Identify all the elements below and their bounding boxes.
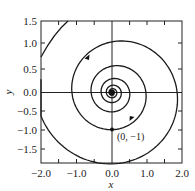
x-tick-label: −1.0 xyxy=(67,167,87,179)
phase-plot: −2.0 −1.0 0.0 1.0 2.0 1.5 1.0 0.5 0.0 −0… xyxy=(0,0,195,191)
trajectory-curve xyxy=(41,41,178,164)
equilibrium-point xyxy=(109,90,115,96)
start-point-marker xyxy=(110,128,114,132)
y-axis-title: y xyxy=(2,89,14,95)
y-tick-label: 1.5 xyxy=(23,15,37,27)
y-tick-label: −1.5 xyxy=(17,143,37,155)
y-tick-label: 0.5 xyxy=(23,63,37,75)
start-point-label: (0, −1) xyxy=(117,131,144,143)
x-tick-label: −2.0 xyxy=(31,167,51,179)
x-tick-label: 1.0 xyxy=(140,167,154,179)
outer-trajectory-branch xyxy=(41,21,68,57)
direction-arrow-icon xyxy=(130,116,135,121)
x-axis-title: x xyxy=(108,178,114,190)
y-tick-label: 1.0 xyxy=(23,37,37,49)
y-tick-label: −1.0 xyxy=(17,124,37,136)
x-tick-label: 2.0 xyxy=(175,167,189,179)
y-tick-label: −0.5 xyxy=(17,105,37,117)
y-tick-label: 0.0 xyxy=(23,86,37,98)
